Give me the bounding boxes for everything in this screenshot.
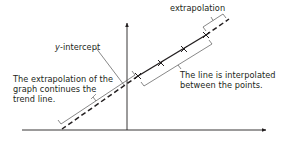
interpolation-label-line-1: The line is interpolated [180, 70, 276, 80]
y-intercept-text: -intercept [60, 42, 100, 52]
extrapolation-note-line-1: The extrapolation of the [13, 74, 113, 84]
data-point-cross-icon [135, 73, 141, 79]
extrapolation-note-line-2: graph continues the [13, 84, 113, 94]
extrapolation-label: extrapolation [170, 3, 225, 13]
interpolation-label: The line is interpolated between the poi… [180, 70, 276, 90]
extrapolation-note-label: The extrapolation of the graph continues… [13, 74, 113, 104]
data-point-cross-icon [203, 32, 209, 38]
extrapolation-dashed-line-upper [206, 19, 229, 35]
y-intercept-label: y-intercept [55, 42, 100, 52]
interpolation-label-line-2: between the points. [180, 80, 276, 90]
extrapolation-note-line-3: trend line. [13, 94, 113, 104]
